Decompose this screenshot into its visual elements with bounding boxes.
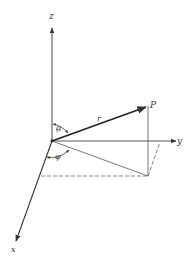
- dashed-y-guide: [148, 142, 160, 176]
- spherical-coordinates-diagram: z y x r P θ φ: [0, 0, 192, 265]
- theta-label: θ: [56, 125, 61, 134]
- x-axis: [16, 141, 52, 241]
- radius-label: r: [97, 114, 102, 123]
- radius-vector: [52, 107, 146, 141]
- origin-point: [51, 140, 54, 143]
- y-axis-label: y: [176, 136, 183, 146]
- phi-label: φ: [55, 152, 61, 161]
- z-axis-label: z: [48, 11, 54, 21]
- x-axis-label: x: [11, 245, 16, 254]
- point-label: P: [149, 100, 157, 110]
- projection-xy: [52, 141, 148, 176]
